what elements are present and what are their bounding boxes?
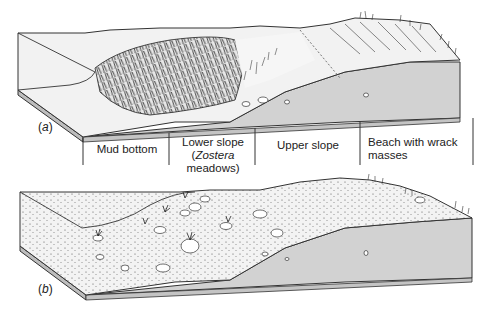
zone-label-beach: Beach with wrack masses	[368, 136, 472, 162]
zone-label-upper-slope: Upper slope	[257, 139, 359, 152]
panel-a-diagram	[18, 11, 460, 142]
panel-b-diagram	[20, 174, 472, 300]
panel-a-label: (a)	[38, 120, 53, 134]
zone-label-mud-bottom: Mud bottom	[86, 143, 168, 156]
panel-b-label: (b)	[38, 282, 53, 296]
zone-label-lower-slope: Lower slope (Zostera meadows)	[170, 136, 256, 175]
